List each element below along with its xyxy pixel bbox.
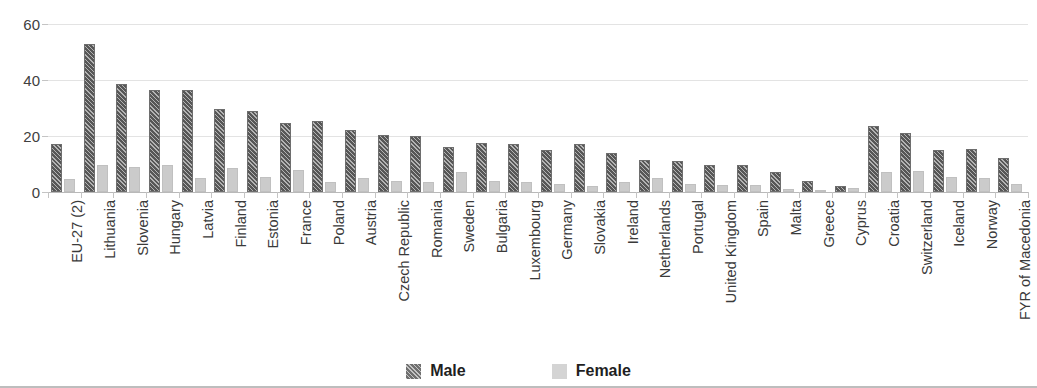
legend-item-female[interactable]: Female bbox=[552, 362, 631, 380]
x-axis-tick bbox=[865, 192, 866, 198]
cropped-title-sliver bbox=[6, 0, 726, 6]
x-axis-label: Netherlands bbox=[658, 200, 673, 278]
x-axis-tick bbox=[440, 192, 441, 198]
x-axis-tick bbox=[407, 192, 408, 198]
bar-male[interactable] bbox=[476, 143, 487, 192]
bar-female[interactable] bbox=[129, 167, 140, 192]
bar-female[interactable] bbox=[554, 184, 565, 192]
x-axis-tick bbox=[211, 192, 212, 198]
bar-male[interactable] bbox=[737, 165, 748, 192]
bar-group bbox=[505, 24, 538, 192]
x-axis-label: Austria bbox=[364, 200, 379, 245]
bar-female[interactable] bbox=[848, 188, 859, 192]
bar-male[interactable] bbox=[541, 150, 552, 192]
x-axis-tick bbox=[277, 192, 278, 198]
bar-male[interactable] bbox=[116, 84, 127, 192]
bar-group bbox=[407, 24, 440, 192]
bar-female[interactable] bbox=[456, 172, 467, 192]
x-axis-tick bbox=[571, 192, 572, 198]
bar-male[interactable] bbox=[606, 153, 617, 192]
bar-male[interactable] bbox=[312, 121, 323, 192]
bar-male[interactable] bbox=[704, 165, 715, 192]
bar-female[interactable] bbox=[881, 172, 892, 192]
x-axis-tick bbox=[767, 192, 768, 198]
x-axis-tick bbox=[244, 192, 245, 198]
x-axis-label: Romania bbox=[430, 200, 445, 258]
x-axis-label: Germany bbox=[560, 200, 575, 260]
bar-male[interactable] bbox=[345, 130, 356, 192]
bar-female[interactable] bbox=[358, 178, 369, 192]
bar-female[interactable] bbox=[97, 165, 108, 192]
bar-male[interactable] bbox=[410, 136, 421, 192]
bar-female[interactable] bbox=[979, 178, 990, 192]
y-axis-tick-label-40: 40 bbox=[0, 73, 40, 88]
x-axis-tick bbox=[146, 192, 147, 198]
bar-female[interactable] bbox=[587, 186, 598, 192]
bar-female[interactable] bbox=[619, 182, 630, 192]
bar-female[interactable] bbox=[325, 182, 336, 192]
bar-male[interactable] bbox=[802, 181, 813, 192]
bar-male[interactable] bbox=[639, 160, 650, 192]
bar-female[interactable] bbox=[195, 178, 206, 192]
x-axis-tick bbox=[342, 192, 343, 198]
bar-male[interactable] bbox=[508, 144, 519, 192]
x-axis-label: Slovakia bbox=[593, 200, 608, 255]
bar-female[interactable] bbox=[750, 185, 761, 192]
bar-male[interactable] bbox=[835, 186, 846, 192]
bar-group bbox=[636, 24, 669, 192]
x-axis-tick bbox=[473, 192, 474, 198]
bar-male[interactable] bbox=[574, 144, 585, 192]
bar-female[interactable] bbox=[293, 170, 304, 192]
bar-male[interactable] bbox=[378, 135, 389, 192]
legend-swatch-male-icon bbox=[406, 364, 421, 379]
legend-label-male: Male bbox=[430, 362, 466, 380]
bar-female[interactable] bbox=[391, 181, 402, 192]
bar-male[interactable] bbox=[84, 44, 95, 192]
bar-female[interactable] bbox=[423, 182, 434, 192]
bar-male[interactable] bbox=[998, 158, 1009, 192]
bar-female[interactable] bbox=[652, 178, 663, 192]
bar-male[interactable] bbox=[933, 150, 944, 192]
bar-group bbox=[701, 24, 734, 192]
bar-male[interactable] bbox=[247, 111, 258, 192]
x-axis-label: Hungary bbox=[168, 200, 183, 255]
bar-female[interactable] bbox=[260, 177, 271, 192]
bar-male[interactable] bbox=[770, 172, 781, 192]
bar-group bbox=[244, 24, 277, 192]
bar-male[interactable] bbox=[443, 147, 454, 192]
bar-male[interactable] bbox=[182, 90, 193, 192]
bar-female[interactable] bbox=[1011, 184, 1022, 192]
x-axis-label: Croatia bbox=[887, 200, 902, 247]
bar-female[interactable] bbox=[717, 185, 728, 192]
bar-female[interactable] bbox=[64, 179, 75, 192]
x-axis-label: Finland bbox=[234, 200, 249, 248]
bar-female[interactable] bbox=[227, 168, 238, 192]
bar-female[interactable] bbox=[815, 190, 826, 192]
bar-chart: 0204060 EU-27 (2)LithuaniaSloveniaHungar… bbox=[0, 0, 1037, 388]
bar-female[interactable] bbox=[162, 165, 173, 192]
x-axis-tick bbox=[81, 192, 82, 198]
bar-female[interactable] bbox=[521, 182, 532, 192]
bar-female[interactable] bbox=[685, 184, 696, 192]
bar-male[interactable] bbox=[280, 123, 291, 192]
x-axis-tick bbox=[963, 192, 964, 198]
bar-female[interactable] bbox=[946, 177, 957, 192]
legend-item-male[interactable]: Male bbox=[406, 362, 466, 380]
bar-male[interactable] bbox=[966, 149, 977, 192]
chart-legend: Male Female bbox=[0, 358, 1037, 384]
bar-male[interactable] bbox=[51, 144, 62, 192]
bar-female[interactable] bbox=[489, 181, 500, 192]
x-axis-tick bbox=[179, 192, 180, 198]
bar-male[interactable] bbox=[149, 90, 160, 192]
bar-group bbox=[81, 24, 114, 192]
bar-male[interactable] bbox=[214, 109, 225, 192]
x-axis-tick bbox=[897, 192, 898, 198]
bar-female[interactable] bbox=[913, 171, 924, 192]
bar-male[interactable] bbox=[672, 161, 683, 192]
x-axis-tick bbox=[930, 192, 931, 198]
bar-male[interactable] bbox=[900, 133, 911, 192]
x-axis-label: Portugal bbox=[691, 200, 706, 254]
bar-male[interactable] bbox=[868, 126, 879, 192]
bar-female[interactable] bbox=[783, 189, 794, 192]
x-axis-label: Switzerland bbox=[920, 200, 935, 275]
